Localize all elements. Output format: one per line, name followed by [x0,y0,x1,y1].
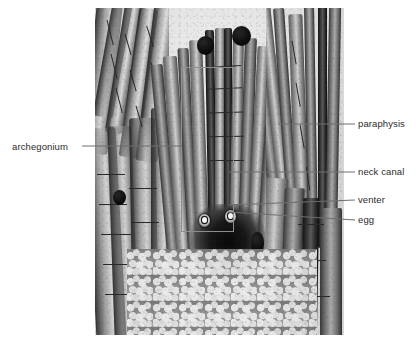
label-egg: egg [358,214,374,225]
label-paraphysis: paraphysis [358,118,405,129]
label-archegonium: archegonium [12,141,68,152]
label-neck-canal: neck canal [358,166,404,177]
figure-panel: archegonium paraphysis neck canal venter… [0,0,416,347]
archegonium-callout-box [181,67,234,232]
label-venter: venter [358,194,385,205]
